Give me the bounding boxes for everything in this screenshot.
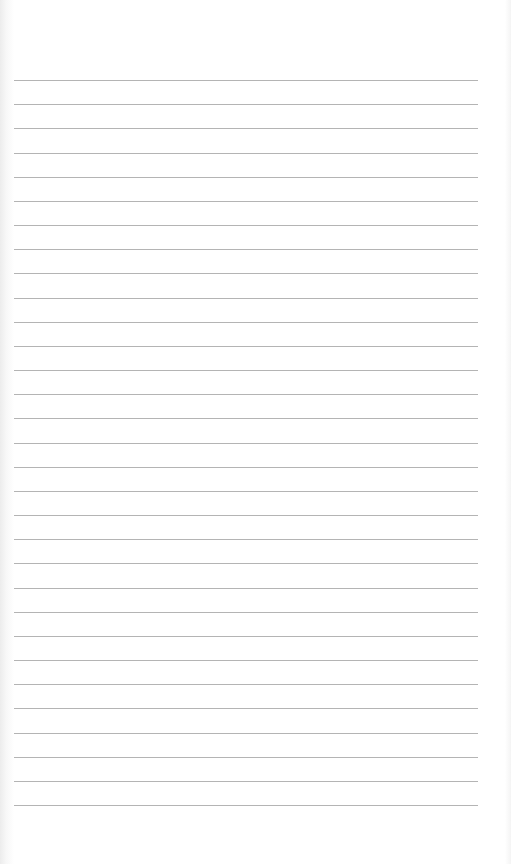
ruled-line	[14, 394, 478, 395]
ruled-line	[14, 781, 478, 782]
ruled-line	[14, 660, 478, 661]
ruled-line	[14, 515, 478, 516]
ruled-line	[14, 805, 478, 806]
ruled-line	[14, 80, 478, 81]
ruled-line	[14, 201, 478, 202]
ruled-line	[14, 346, 478, 347]
ruled-line	[14, 636, 478, 637]
ruled-line	[14, 491, 478, 492]
ruled-line	[14, 612, 478, 613]
ruled-line	[14, 467, 478, 468]
ruled-line	[14, 588, 478, 589]
ruled-line	[14, 177, 478, 178]
ruled-line	[14, 757, 478, 758]
ruled-line	[14, 225, 478, 226]
ruled-line	[14, 418, 478, 419]
ruled-line	[14, 128, 478, 129]
ruled-line	[14, 104, 478, 105]
ruled-line	[14, 249, 478, 250]
ruled-line	[14, 273, 478, 274]
ruled-line	[14, 733, 478, 734]
lined-paper-sheet	[0, 0, 511, 864]
ruled-line	[14, 370, 478, 371]
ruled-line	[14, 298, 478, 299]
ruled-line	[14, 563, 478, 564]
ruled-line	[14, 322, 478, 323]
ruled-line	[14, 708, 478, 709]
ruled-line	[14, 153, 478, 154]
ruled-line	[14, 539, 478, 540]
ruled-line	[14, 443, 478, 444]
paper-right-edge	[505, 0, 511, 864]
ruled-line	[14, 684, 478, 685]
